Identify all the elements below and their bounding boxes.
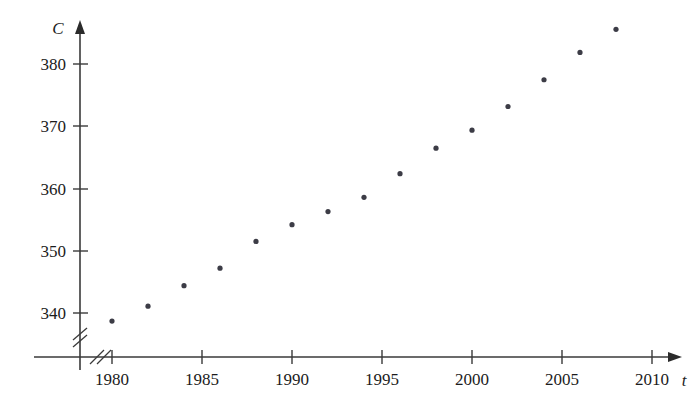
data-point (613, 27, 618, 32)
data-point (181, 283, 186, 288)
x-tick-label-1985: 1985 (185, 370, 219, 389)
chart-page: 380 370 360 350 340 1980 1985 1990 1995 … (0, 0, 699, 409)
data-point (217, 266, 222, 271)
x-tick-label-2010: 2010 (635, 370, 669, 389)
x-tick-label-1980: 1980 (95, 370, 129, 389)
data-point (109, 318, 114, 323)
data-point (505, 104, 510, 109)
data-point (145, 304, 150, 309)
y-axis-arrow-icon (75, 20, 85, 34)
y-tick-label-340: 340 (41, 304, 67, 323)
y-tick-label-350: 350 (41, 242, 67, 261)
data-point (397, 171, 402, 176)
data-point-layer (109, 27, 618, 324)
data-point (469, 128, 474, 133)
data-point (361, 195, 366, 200)
y-tick-label-380: 380 (41, 55, 67, 74)
data-point (325, 209, 330, 214)
scatter-plot: 380 370 360 350 340 1980 1985 1990 1995 … (0, 0, 699, 409)
x-tick-label-1995: 1995 (365, 370, 399, 389)
x-tick-label-2005: 2005 (545, 370, 579, 389)
y-axis-title: C (52, 19, 64, 38)
data-point (433, 146, 438, 151)
data-point (253, 239, 258, 244)
data-point (577, 50, 582, 55)
data-point (289, 222, 294, 227)
y-tick-label-360: 360 (41, 180, 67, 199)
x-tick-label-2000: 2000 (455, 370, 489, 389)
y-tick-label-370: 370 (41, 117, 67, 136)
x-tick-label-1990: 1990 (275, 370, 309, 389)
x-axis-title: t (682, 371, 688, 390)
data-point (541, 77, 546, 82)
x-axis-arrow-icon (668, 352, 682, 362)
